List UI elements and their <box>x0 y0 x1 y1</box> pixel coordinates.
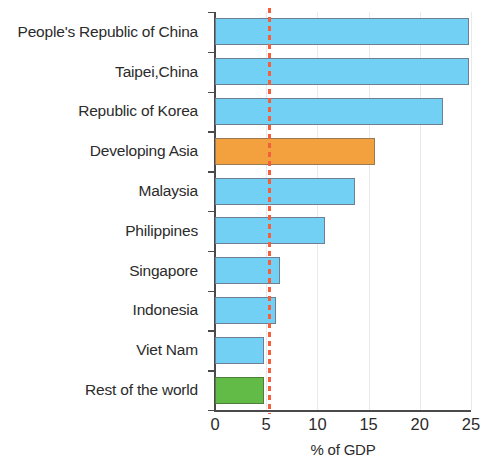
category-tick <box>208 211 214 212</box>
bar-row <box>215 291 471 331</box>
x-tick-label: 25 <box>462 415 480 434</box>
value-axis-line <box>214 410 471 412</box>
bar-row <box>215 131 471 171</box>
category-label: Rest of the world <box>0 370 207 410</box>
bar[interactable] <box>215 337 264 364</box>
bar-row <box>215 92 471 132</box>
bar[interactable] <box>215 98 443 125</box>
x-tick-label: 10 <box>308 415 326 434</box>
category-tick <box>208 370 214 371</box>
category-label: Viet Nam <box>0 330 207 370</box>
bar-row <box>215 12 471 52</box>
category-label: Taipei,China <box>0 52 207 92</box>
bar-row <box>215 330 471 370</box>
x-tick-label: 15 <box>359 415 377 434</box>
category-tick <box>208 92 214 93</box>
bar[interactable] <box>215 18 469 45</box>
category-label: Republic of Korea <box>0 92 207 132</box>
category-label: Philippines <box>0 211 207 251</box>
category-label: Indonesia <box>0 291 207 331</box>
x-tick-label: 0 <box>210 415 219 434</box>
x-tick-label: 5 <box>262 415 271 434</box>
category-tick <box>208 330 214 331</box>
category-tick <box>208 251 214 252</box>
bar-row <box>215 251 471 291</box>
category-tick <box>208 291 214 292</box>
category-axis: People's Republic of China Taipei,China … <box>0 12 207 410</box>
value-axis: 0510152025 <box>215 410 471 436</box>
bar[interactable] <box>215 178 355 205</box>
bar[interactable] <box>215 138 375 165</box>
plot-area <box>215 12 471 410</box>
bar[interactable] <box>215 58 469 85</box>
bar-row <box>215 370 471 410</box>
category-label: People's Republic of China <box>0 12 207 52</box>
bar-series <box>215 12 471 410</box>
reference-line <box>268 8 271 414</box>
gridline <box>471 12 472 410</box>
x-axis-title: % of GDP <box>215 441 471 458</box>
category-label: Singapore <box>0 251 207 291</box>
bar-row <box>215 52 471 92</box>
category-label: Malaysia <box>0 171 207 211</box>
category-tick <box>208 131 214 132</box>
category-tick <box>208 52 214 53</box>
x-tick-label: 20 <box>411 415 429 434</box>
bar[interactable] <box>215 377 264 404</box>
bar-chart: People's Republic of China Taipei,China … <box>0 0 484 468</box>
bar-row <box>215 211 471 251</box>
bar-row <box>215 171 471 211</box>
category-tick <box>208 12 214 13</box>
category-tick <box>208 171 214 172</box>
category-label: Developing Asia <box>0 131 207 171</box>
